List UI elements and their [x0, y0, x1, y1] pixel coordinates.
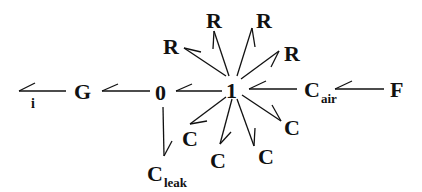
node-c-air-label: C — [304, 77, 320, 102]
bond-1-r3 — [237, 28, 252, 76]
node-c3: C — [258, 146, 274, 168]
node-g: G — [74, 81, 91, 103]
node-c2: C — [210, 150, 226, 172]
half-arrow-icon — [19, 83, 35, 91]
node-c-leak-label: C — [147, 161, 163, 186]
half-arrow-icon — [213, 31, 214, 49]
half-arrow-icon — [176, 84, 192, 91]
bond-0-cleak — [163, 107, 164, 156]
half-arrow-icon — [164, 141, 172, 156]
node-zero-junction: 0 — [155, 82, 166, 104]
node-i: i — [31, 97, 35, 111]
node-f: F — [390, 79, 403, 101]
node-c4: C — [284, 117, 300, 139]
bond-1-c3 — [237, 99, 254, 146]
node-c-air-subscript: air — [321, 91, 337, 106]
half-arrow-icon — [254, 128, 255, 146]
half-arrow-icon — [102, 84, 118, 91]
node-r1: R — [163, 36, 179, 58]
node-c-air: Cair — [304, 79, 337, 101]
bond-1-r4 — [241, 51, 279, 79]
bond-1-c4 — [242, 95, 281, 121]
bond-1-r1 — [184, 48, 226, 76]
half-arrow-icon — [335, 81, 352, 89]
node-r3: R — [256, 10, 272, 32]
half-arrow-icon — [252, 28, 255, 47]
node-one-junction: 1 — [226, 80, 237, 102]
node-c-leak-subscript: leak — [164, 175, 187, 190]
node-c1: C — [182, 128, 198, 150]
node-r4: R — [284, 43, 300, 65]
node-c-leak: Cleak — [147, 163, 187, 185]
node-r2: R — [206, 10, 222, 32]
bond-1-c1 — [190, 97, 226, 124]
half-arrow-icon — [249, 81, 266, 89]
